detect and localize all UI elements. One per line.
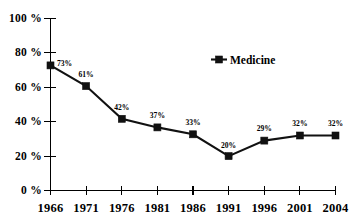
y-tick-label: 80 %: [15, 46, 42, 58]
data-point[interactable]: [190, 131, 197, 138]
data-point-label: 20%: [221, 141, 236, 150]
legend-label-medicine: Medicine: [230, 54, 275, 66]
x-tick-label: 2001: [287, 201, 313, 215]
data-point-label: 61%: [79, 70, 94, 79]
data-point-label: 32%: [328, 119, 343, 128]
chart-background: [0, 0, 355, 222]
data-point-label: 73%: [57, 59, 72, 68]
data-point[interactable]: [296, 132, 303, 139]
chart-container: 100 % 80 % 60 % 40 % 20 % 0 % 1966 1971 …: [0, 0, 355, 222]
data-point-label: 33%: [185, 118, 200, 127]
y-tick-label: 100 %: [9, 12, 42, 24]
line-chart: 100 % 80 % 60 % 40 % 20 % 0 % 1966 1971 …: [0, 0, 355, 222]
y-tick-label: 60 %: [15, 81, 42, 93]
data-point-label: 32%: [292, 119, 307, 128]
data-point[interactable]: [261, 137, 268, 144]
data-point[interactable]: [118, 115, 125, 122]
x-axis-labels: 1966 1971 1976 1981 1986 1991 1996 2001 …: [38, 201, 349, 215]
x-tick-label: 1991: [216, 201, 242, 215]
y-tick-label: 20 %: [15, 150, 42, 162]
x-tick-label: 1986: [180, 201, 206, 215]
x-tick-label: 1966: [38, 201, 64, 215]
data-point-label: 29%: [257, 124, 272, 133]
x-tick-label: 1971: [73, 201, 99, 215]
legend-marker-icon: [216, 56, 223, 63]
data-point-label: 42%: [114, 103, 129, 112]
data-point[interactable]: [225, 153, 232, 160]
y-tick-label: 0 %: [21, 184, 42, 196]
data-point[interactable]: [47, 62, 54, 69]
data-point[interactable]: [332, 132, 339, 139]
y-tick-label: 40 %: [15, 115, 42, 127]
data-point[interactable]: [83, 83, 90, 90]
data-point[interactable]: [154, 124, 161, 131]
x-tick-label: 2004: [323, 201, 349, 215]
x-tick-label: 1996: [251, 201, 277, 215]
data-point-label: 37%: [150, 111, 165, 120]
x-tick-label: 1976: [109, 201, 135, 215]
x-tick-label: 1981: [144, 201, 170, 215]
